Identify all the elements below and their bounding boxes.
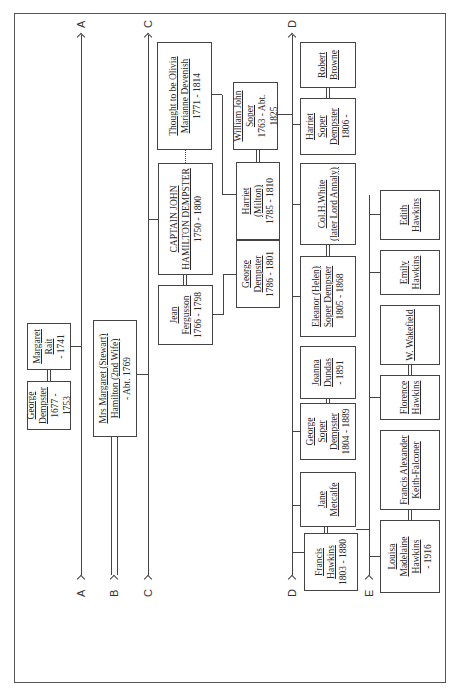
person-george-dempster-1786: George Dempster 1786 - 1801 [236, 240, 280, 308]
marriage-link [183, 275, 187, 285]
descent-line [292, 124, 300, 125]
descent-line [369, 272, 380, 273]
person-emily-hawkins: Emily Hawkins [380, 250, 440, 295]
descent-line [212, 94, 222, 95]
connector-c-line [148, 35, 149, 575]
descent-line [213, 314, 223, 315]
connector-e-line [369, 195, 370, 575]
descent-line [71, 346, 81, 347]
descent-line [223, 275, 224, 315]
person-w-wakefield: W. Wakefield [380, 305, 440, 365]
person-george-soper-dempster: George Soper Dempster 1804 - 1889 [300, 403, 356, 460]
person-jean-fergusson: Jean Fergusson 1766 - 1798 [158, 285, 213, 345]
person-harriet-soper-dempster: Harriet Soper Dempster 1806 - [300, 98, 356, 155]
person-florence-hawkins: Florence Hawkins [380, 375, 440, 420]
person-william-john-soper: William John Soper 1763 - Abt. 1825 [233, 82, 278, 150]
partner-dotted-link [185, 150, 186, 163]
descent-line [222, 194, 236, 195]
descent-line [369, 214, 380, 215]
person-francis-hawkins: Francis Hawkins 1803 - 1880 [304, 533, 358, 591]
descent-line [137, 374, 148, 375]
marriage-link [324, 527, 328, 533]
connector-label-a-left: A [76, 590, 87, 597]
person-robert-browne: Robert Browne [300, 42, 356, 88]
connector-label-c-right: C [143, 20, 154, 28]
descent-line [292, 296, 300, 297]
descent-line [369, 556, 380, 557]
person-captain-john-hamilton-dempster: CAPTAIN JOHN HAMILTON DEMPSTER 1750 - 18… [158, 163, 213, 275]
connector-label-b-left: B [109, 590, 120, 597]
person-george-dempster-1677: George Dempster 1677 - 1753 [27, 381, 71, 430]
connector-a-line [81, 35, 82, 575]
marriage-link [408, 365, 412, 375]
marriage-link [47, 370, 51, 381]
person-jane-metcalfe: Jane Metcalfe [300, 472, 356, 527]
descent-line [292, 505, 300, 506]
connector-label-e-left: E [364, 590, 375, 597]
person-olivia-devenish: Thought to be Olivia Marianne Devenish 1… [157, 42, 212, 150]
descent-line [292, 204, 300, 205]
person-louisa-madelaine-hawkins: Louisa Madelaine Hawkins - 1916 [380, 520, 440, 593]
descent-line [222, 95, 223, 195]
marriage-link [326, 245, 330, 256]
connector-b-line-2 [117, 435, 118, 575]
descent-line [148, 219, 158, 220]
person-edith-hawkins: Edith Hawkins [380, 190, 440, 240]
marriage-link [408, 510, 412, 520]
person-harriet-milton: Harriet (Milton) 1785 - 1810 [236, 162, 280, 240]
marriage-link [256, 150, 260, 162]
person-margaret-stewart: Mrs Margaret (Stewart) Hamilton (2nd Wif… [93, 320, 137, 437]
descent-line [292, 431, 300, 432]
marriage-link [326, 88, 330, 98]
connector-d-line [292, 35, 293, 575]
descent-line [223, 274, 236, 275]
family-tree-diagram: A B C D E A C D George Dempster 1677 - 1… [0, 0, 464, 695]
connector-label-c-left: C [143, 589, 154, 597]
connector-b-line-1 [111, 435, 112, 575]
descent-line [369, 397, 380, 398]
marriage-link [326, 399, 330, 403]
connector-label-d-right: D [287, 20, 298, 28]
descent-line [356, 529, 369, 530]
person-col-h-white: Col.H.White (later Lord Annaly) [300, 163, 356, 245]
person-margaret-rait: Margaret Rait - 1741 [27, 323, 71, 370]
person-eleanor-helen-soper-dempster: Eleanor (Helen) Soper Dempster 1805 - 18… [300, 256, 356, 337]
connector-label-d-left: D [287, 589, 298, 597]
descent-line [292, 552, 304, 553]
descent-line [278, 114, 292, 115]
person-joanna-dundas: Joanna Dundas - 1891 [300, 346, 356, 399]
connector-label-a-right: A [76, 21, 87, 28]
person-francis-alexander-keith-falconer: Francis Alexander Keith-Falconer [380, 430, 440, 510]
